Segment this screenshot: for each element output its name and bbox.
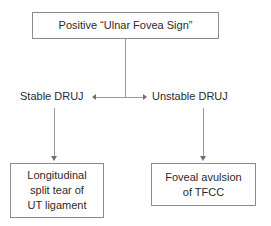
flowchart-canvas: Positive “Ulnar Fovea Sign” Stable DRUJ … [0, 0, 271, 226]
branch-label-unstable-druj: Unstable DRUJ [152, 90, 228, 102]
node-positive-ulnar-fovea-sign: Positive “Ulnar Fovea Sign” [32, 12, 219, 39]
trunk-connector-line [125, 39, 126, 97]
left-branch-connector-line [54, 108, 55, 158]
node-label: Foveal avulsion of TFCC [161, 170, 245, 200]
node-label: Positive “Ulnar Fovea Sign” [55, 18, 197, 33]
arrow-down-right-icon [200, 156, 206, 161]
arrow-down-left-icon [51, 156, 57, 161]
right-branch-connector-line [203, 108, 204, 158]
node-foveal-avulsion-tfcc: Foveal avulsion of TFCC [151, 163, 256, 206]
arrow-left-icon [92, 94, 96, 100]
branch-split-line [95, 97, 144, 98]
node-longitudinal-split-tear-ut-ligament: Longitudinal split tear of UT ligament [10, 163, 104, 218]
arrow-right-icon [143, 94, 147, 100]
branch-label-stable-druj: Stable DRUJ [20, 90, 84, 102]
node-label: Longitudinal split tear of UT ligament [23, 168, 90, 213]
